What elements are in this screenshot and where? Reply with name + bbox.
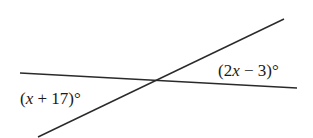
intersecting-lines-diagram: (x + 17)° (2x − 3)°: [0, 0, 313, 138]
angle-label-left: (x + 17)°: [20, 89, 81, 108]
angle-label-right: (2x − 3)°: [218, 61, 279, 80]
